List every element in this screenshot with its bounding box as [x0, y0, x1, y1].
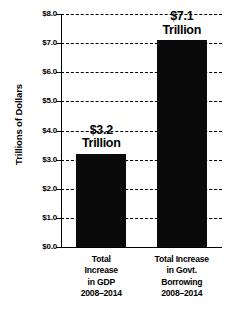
y-axis-tick-label: $7.0 [27, 39, 57, 47]
bar [157, 40, 207, 247]
y-axis-tick-mark [56, 160, 61, 161]
y-axis-tick-mark [56, 247, 61, 248]
category-label-line: 2008–2014 [132, 288, 229, 299]
y-axis-tick-mark [56, 218, 61, 219]
y-axis-tick-label: $6.0 [27, 68, 57, 76]
y-axis-tick-mark [56, 101, 61, 102]
y-axis-tick-label: $5.0 [27, 97, 57, 105]
bar-value-unit: Trillion [56, 137, 146, 151]
category-label: Total Increasein Govt.Borrowing2008–2014 [132, 254, 229, 300]
y-axis-tick-label: $0.0 [27, 243, 57, 251]
y-axis-tick-mark [56, 189, 61, 190]
y-axis-tick-label: $2.0 [27, 185, 57, 193]
category-label-line: Borrowing [132, 277, 229, 288]
bar-value-label: $3.2Trillion [56, 124, 146, 151]
y-axis-tick-label: $8.0 [27, 10, 57, 18]
axis-baseline [61, 247, 222, 248]
y-axis-tick-label: $3.0 [27, 156, 57, 164]
bar-value-amount: $3.2 [56, 124, 146, 138]
bar-value-unit: Trillion [137, 24, 227, 38]
bar [76, 154, 126, 247]
category-label-line: Total Increase [132, 254, 229, 265]
y-axis-title: Trillions of Dollars [13, 60, 24, 190]
y-axis-tick-label: $1.0 [27, 214, 57, 222]
bar-chart: Trillions of Dollars $8.0$7.0$6.0$5.0$4.… [0, 0, 229, 309]
y-axis-tick-mark [56, 131, 61, 132]
bar-value-amount: $7.1 [137, 10, 227, 24]
y-axis-tick-mark [56, 14, 61, 15]
category-label-line: in Govt. [132, 265, 229, 276]
y-axis-tick-mark [56, 72, 61, 73]
bar-value-label: $7.1Trillion [137, 10, 227, 37]
y-axis-tick-mark [56, 43, 61, 44]
y-axis-tick-label: $4.0 [27, 127, 57, 135]
